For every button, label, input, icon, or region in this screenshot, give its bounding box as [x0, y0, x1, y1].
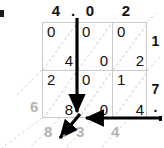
lattice-cell-r1c2: 1 4 — [113, 71, 148, 119]
cell-lower-digit: 4 — [136, 101, 144, 118]
lattice-cell-r0c1: 0 0 — [78, 23, 113, 71]
product-digit-3: 3 — [76, 124, 84, 140]
lattice-cell-r1c1: 0 0 — [78, 71, 113, 119]
cell-lower-digit: 4 — [65, 52, 73, 69]
product-digit-4: 4 — [111, 124, 119, 140]
cell-lower-digit: 2 — [136, 52, 144, 69]
cell-upper-digit: 0 — [47, 23, 55, 40]
cell-upper-digit: 0 — [82, 23, 90, 40]
multiplicand-labels: 4 . 0 2 — [42, 2, 147, 21]
product-digit-1: 6 — [30, 99, 38, 115]
cell-upper-digit: 0 — [117, 23, 125, 40]
product-digit-2: 8 — [44, 124, 52, 140]
cell-lower-digit: 0 — [100, 52, 108, 69]
cell-upper-digit: 2 — [47, 71, 55, 88]
multiplier-digit-1: 1 — [149, 33, 162, 49]
multiplicand-digit-2: 0 — [80, 2, 100, 20]
multiplier-labels: 1 7 . — [149, 22, 164, 132]
lattice-cell-r0c2: 0 2 — [113, 23, 148, 71]
multiplier-decimal-point: . — [149, 99, 162, 115]
lattice-cell-r0c0: 0 4 — [43, 23, 78, 71]
multiplicand-digit-3: 2 — [116, 2, 136, 20]
cell-lower-digit: 8 — [65, 101, 73, 118]
lattice-cell-r1c0: 2 8 — [43, 71, 78, 119]
multiplier-digit-2: 7 — [149, 81, 162, 97]
cell-lower-digit: 0 — [100, 101, 108, 118]
corner-artifact-mark — [0, 10, 4, 17]
cell-upper-digit: 1 — [117, 71, 125, 88]
product-decimal-point: . — [62, 124, 66, 140]
lattice-multiplication-figure: 4 . 0 2 1 7 . 0 4 — [0, 0, 164, 148]
lattice-grid: 0 4 0 0 0 2 2 8 — [42, 22, 147, 118]
cell-upper-digit: 0 — [82, 71, 90, 88]
